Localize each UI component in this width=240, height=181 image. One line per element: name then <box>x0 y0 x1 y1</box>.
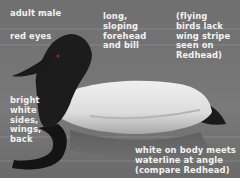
label-waterline: white on body meets waterline at angle (… <box>135 146 236 175</box>
label-wing-stripe: (flying birds lack wing stripe seen on R… <box>176 12 230 61</box>
duck-photo: adult male red eyes long, sloping forehe… <box>0 0 240 178</box>
label-red-eyes: red eyes <box>10 32 51 42</box>
red-eye <box>56 54 59 57</box>
image-border <box>0 178 240 181</box>
label-bright-white: bright white sides, wings, back <box>10 96 41 145</box>
label-forehead-bill: long, sloping forehead and bill <box>103 12 146 51</box>
body <box>58 81 212 134</box>
label-adult-male: adult male <box>10 9 61 19</box>
